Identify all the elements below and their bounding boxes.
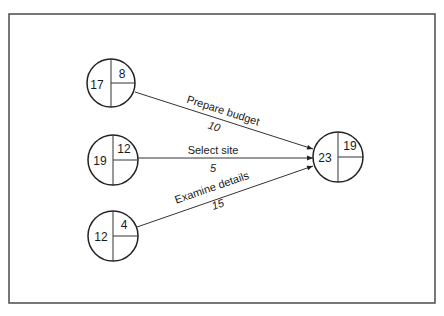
edge-examine-details: Examine details 15 xyxy=(137,166,313,227)
node-2-top-right-value: 12 xyxy=(117,142,131,156)
edge-prepare-budget: Prepare budget 10 xyxy=(135,92,313,149)
edge-2-label: Select site xyxy=(188,144,239,156)
node-1: 17 8 xyxy=(87,59,135,107)
edge-1-duration: 10 xyxy=(207,119,223,134)
node-3: 12 4 xyxy=(88,211,138,261)
edge-2-duration: 5 xyxy=(210,162,217,174)
node-4: 23 19 xyxy=(313,132,363,182)
arrow-icon xyxy=(137,166,313,227)
edge-select-site: Select site 5 xyxy=(138,144,313,174)
node-1-left-value: 17 xyxy=(90,78,104,92)
node-3-left-value: 12 xyxy=(94,230,108,244)
node-4-top-right-value: 19 xyxy=(343,139,357,153)
arrow-icon xyxy=(135,92,313,149)
edge-3-duration: 15 xyxy=(210,196,226,212)
node-2: 19 12 xyxy=(88,135,138,185)
edge-1-label: Prepare budget xyxy=(185,93,261,128)
node-4-left-value: 23 xyxy=(318,151,332,165)
network-diagram: 17 8 19 12 12 4 23 19 Prepare budget 10 … xyxy=(0,0,444,316)
node-2-left-value: 19 xyxy=(93,154,107,168)
node-3-top-right-value: 4 xyxy=(121,218,128,232)
node-1-top-right-value: 8 xyxy=(119,67,126,81)
